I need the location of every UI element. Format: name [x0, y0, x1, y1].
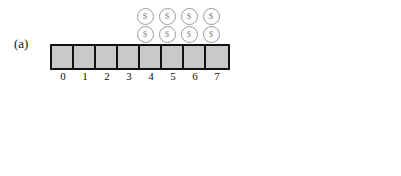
panel-a: (a) $ $ $ $ $ [0, 0, 401, 88]
coin-icon: $ [137, 26, 154, 43]
panel-a-label: (a) [14, 36, 28, 52]
index-label: 1 [74, 70, 96, 83]
coin-slot: $ [134, 7, 156, 25]
array-cell [52, 46, 74, 68]
array-cell [118, 46, 140, 68]
coin-icon: $ [159, 26, 176, 43]
coin-icon: $ [181, 26, 198, 43]
panel-a-index-labels: 0 1 2 3 4 5 6 7 [52, 70, 228, 83]
panel-b: (b) $ $ [0, 88, 401, 176]
dynamic-table-figure: (a) $ $ $ $ $ [0, 0, 401, 176]
coin-icon: $ [203, 8, 220, 25]
index-label: 3 [118, 70, 140, 83]
panel-a-coin-row-bottom: $ $ $ $ [134, 25, 222, 43]
index-label: 7 [206, 70, 228, 83]
coin-slot: $ [178, 25, 200, 43]
coin-icon: $ [137, 8, 154, 25]
array-cell [162, 46, 184, 68]
coin-slot: $ [178, 7, 200, 25]
coin-slot: $ [134, 25, 156, 43]
array-cell [206, 46, 228, 68]
array-cell [184, 46, 206, 68]
array-cell [140, 46, 162, 68]
index-label: 6 [184, 70, 206, 83]
array-cell [96, 46, 118, 68]
index-label: 4 [140, 70, 162, 83]
index-label: 2 [96, 70, 118, 83]
coin-slot: $ [200, 7, 222, 25]
coin-icon: $ [159, 8, 176, 25]
panel-a-array [50, 44, 230, 70]
panel-a-coin-row-top: $ $ $ $ [134, 7, 222, 25]
array-cell [74, 46, 96, 68]
index-label: 5 [162, 70, 184, 83]
panel-a-coin-stack: $ $ $ $ $ $ $ [134, 7, 222, 43]
coin-icon: $ [203, 26, 220, 43]
coin-icon: $ [181, 8, 198, 25]
coin-slot: $ [200, 25, 222, 43]
coin-slot: $ [156, 7, 178, 25]
index-label: 0 [52, 70, 74, 83]
coin-slot: $ [156, 25, 178, 43]
